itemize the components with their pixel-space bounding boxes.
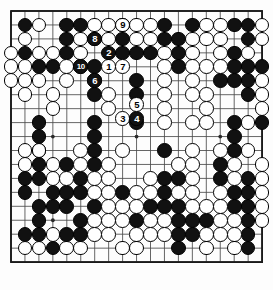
white-stone	[101, 157, 116, 172]
black-stone	[227, 46, 242, 61]
white-stone	[143, 227, 158, 242]
black-stone	[171, 59, 186, 74]
black-stone	[157, 185, 172, 200]
white-stone	[185, 87, 200, 102]
white-stone	[157, 213, 172, 228]
black-stone	[143, 199, 158, 214]
black-stone	[143, 46, 158, 61]
white-stone	[185, 143, 200, 158]
black-stone	[87, 87, 102, 102]
black-stone	[241, 199, 256, 214]
black-stone	[32, 171, 47, 186]
white-stone	[227, 241, 242, 256]
white-stone	[87, 171, 102, 186]
move-stone-5	[129, 97, 144, 112]
black-stone	[241, 213, 256, 228]
white-stone	[199, 32, 214, 47]
white-stone	[213, 59, 228, 74]
white-stone	[199, 241, 214, 256]
black-stone	[73, 185, 88, 200]
white-stone	[157, 115, 172, 130]
move-stone-3	[115, 111, 130, 126]
black-stone	[73, 213, 88, 228]
white-stone	[199, 87, 214, 102]
white-stone	[199, 227, 214, 242]
black-stone	[213, 171, 228, 186]
white-stone	[185, 73, 200, 88]
white-stone	[101, 199, 116, 214]
white-stone	[213, 199, 228, 214]
black-stone	[87, 129, 102, 144]
white-stone	[87, 18, 102, 33]
black-stone	[227, 18, 242, 33]
black-stone	[227, 73, 242, 88]
white-stone	[18, 157, 33, 172]
white-stone	[255, 199, 270, 214]
white-stone	[213, 227, 228, 242]
white-stone	[73, 32, 88, 47]
white-stone	[73, 46, 88, 61]
white-stone	[129, 227, 144, 242]
white-stone	[227, 227, 242, 242]
white-stone	[46, 171, 61, 186]
black-stone	[129, 213, 144, 228]
black-stone	[171, 199, 186, 214]
black-stone	[59, 185, 74, 200]
black-stone	[32, 227, 47, 242]
black-stone	[59, 46, 74, 61]
white-stone	[213, 18, 228, 33]
white-stone	[213, 46, 228, 61]
black-stone	[46, 185, 61, 200]
white-stone	[143, 185, 158, 200]
black-stone	[129, 73, 144, 88]
white-stone	[101, 213, 116, 228]
white-stone	[185, 157, 200, 172]
white-stone	[101, 171, 116, 186]
white-stone	[213, 213, 228, 228]
white-stone	[101, 32, 116, 47]
move-stone-6	[87, 73, 102, 88]
white-stone	[213, 143, 228, 158]
move-stone-4	[129, 111, 144, 126]
white-stone	[227, 157, 242, 172]
white-stone	[143, 32, 158, 47]
white-stone	[213, 32, 228, 47]
white-stone	[157, 101, 172, 116]
white-stone	[73, 143, 88, 158]
black-stone	[46, 59, 61, 74]
white-stone	[46, 87, 61, 102]
black-stone	[227, 115, 242, 130]
black-stone	[87, 157, 102, 172]
white-stone	[199, 59, 214, 74]
black-stone	[115, 32, 130, 47]
white-stone	[32, 143, 47, 158]
black-stone	[87, 199, 102, 214]
white-stone	[185, 199, 200, 214]
black-stone	[73, 227, 88, 242]
white-stone	[129, 185, 144, 200]
white-stone	[101, 227, 116, 242]
black-stone	[185, 18, 200, 33]
black-stone	[32, 157, 47, 172]
go-diagram: 12345678910	[0, 0, 273, 290]
black-stone	[241, 185, 256, 200]
white-stone	[185, 59, 200, 74]
black-stone	[18, 185, 33, 200]
white-stone	[185, 32, 200, 47]
white-stone	[143, 18, 158, 33]
white-stone	[18, 87, 33, 102]
white-stone	[101, 185, 116, 200]
black-stone	[227, 59, 242, 74]
black-stone	[115, 46, 130, 61]
white-stone	[157, 46, 172, 61]
black-stone	[171, 171, 186, 186]
white-stone	[46, 157, 61, 172]
white-stone	[101, 18, 116, 33]
black-stone	[59, 199, 74, 214]
white-stone	[199, 18, 214, 33]
white-stone	[129, 18, 144, 33]
white-stone	[157, 59, 172, 74]
white-stone	[18, 143, 33, 158]
white-stone	[255, 157, 270, 172]
white-stone	[255, 185, 270, 200]
